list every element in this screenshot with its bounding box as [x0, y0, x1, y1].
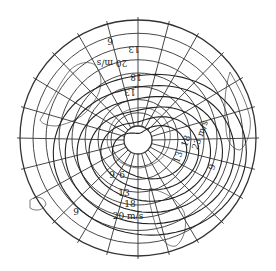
isotach-23	[53, 74, 246, 235]
isotach-contours	[53, 74, 246, 235]
isotach-label-left-9: 9	[73, 207, 79, 217]
isotach-label-bottom-13: 13	[118, 188, 130, 198]
isotach-label-bottom-6: 6	[119, 170, 125, 180]
isotach-label-bottom-18: 18	[124, 199, 136, 209]
meridian-line	[148, 52, 224, 130]
isotach-label-bottom-9: 9	[109, 170, 115, 180]
polar-isotach-map: 61320 m/s1813131823 m/s996131820 m/s9	[0, 0, 276, 271]
isotach-label-top-18: 18	[130, 72, 142, 82]
isotach-label-top-13b: 13	[124, 87, 136, 97]
isotach-18	[77, 97, 222, 213]
isotach-label-top-13: 13	[128, 44, 140, 54]
isotach-label-right-9: 9	[206, 162, 217, 171]
isotach-label-top-20ms: 20 m/s	[96, 58, 127, 68]
isotach-label-bottom-20ms: 20 m/s	[113, 211, 144, 221]
coastline-africa	[149, 188, 185, 246]
coastline-australia	[40, 63, 101, 126]
isotach-label-top-6: 6	[107, 36, 113, 46]
pole-circle	[124, 126, 152, 154]
